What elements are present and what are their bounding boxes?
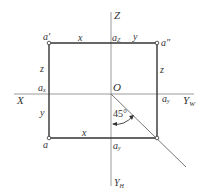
- bottom-x-dimension: x: [81, 127, 87, 138]
- ax-label: ax: [38, 82, 46, 93]
- left-y-dimension: y: [39, 107, 45, 118]
- top-y-dimension: y: [132, 31, 138, 42]
- point-a-double-prime-marker: [155, 41, 159, 45]
- ay-bottom-label: ay: [113, 140, 121, 151]
- az-label: aZ: [112, 32, 121, 43]
- top-x-dimension: x: [77, 32, 83, 43]
- z-axis-label: Z: [114, 9, 121, 21]
- yh-axis-label: YH: [114, 177, 125, 189]
- projection-diagram: Z X YW YH O a′ a″ a aZ ax ay ay x y z z …: [0, 0, 205, 196]
- x-axis-label: X: [16, 94, 25, 106]
- a-label: a: [43, 139, 48, 150]
- left-z-dimension: z: [39, 63, 44, 74]
- angle-45-label: 45°: [113, 108, 127, 119]
- origin-label: O: [113, 81, 121, 93]
- point-ay-corner-marker: [155, 136, 159, 140]
- a-double-prime-label: a″: [161, 37, 171, 48]
- yw-axis-label: YW: [183, 94, 196, 108]
- diagonal-45-line: [111, 94, 186, 167]
- arc-arrow-left-icon: [112, 122, 117, 126]
- a-prime-label: a′: [43, 31, 51, 42]
- ay-right-label: ay: [162, 93, 170, 104]
- right-z-dimension: z: [159, 64, 164, 75]
